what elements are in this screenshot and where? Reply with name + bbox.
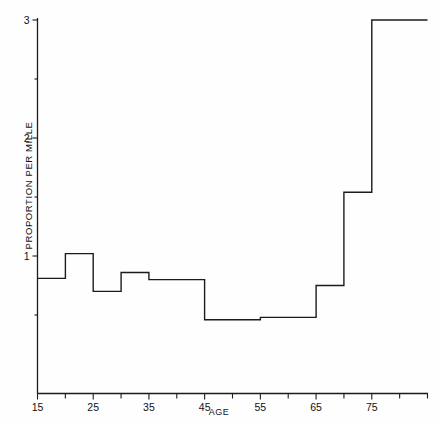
chart-figure: 15253545556575 123 PROPORTION PER MILLE … [0, 0, 438, 426]
x-axis-ticks [38, 394, 428, 400]
y-axis-title: PROPORTION PER MILLE [23, 111, 34, 261]
step-chart-canvas [0, 0, 438, 426]
x-axis-title: AGE [0, 407, 438, 417]
y-tick-label-3: 3 [16, 14, 30, 26]
chart-axes [33, 18, 429, 400]
step-series-line [38, 20, 428, 320]
